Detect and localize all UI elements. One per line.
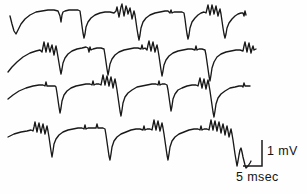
amplitude-scale-label: 1 mV	[267, 145, 298, 158]
trace-sweep-1	[10, 4, 246, 40]
trace-sweep-3	[8, 75, 250, 117]
trace-group	[8, 4, 256, 168]
trace-sweep-4	[8, 120, 251, 168]
scale-bar	[243, 140, 262, 166]
time-scale-label: 5 msec	[236, 171, 279, 184]
electrophysiology-figure: 1 mV 5 msec	[0, 0, 307, 194]
trace-canvas	[0, 0, 307, 194]
trace-sweep-2	[8, 41, 256, 81]
scale-bar-group	[243, 140, 262, 166]
